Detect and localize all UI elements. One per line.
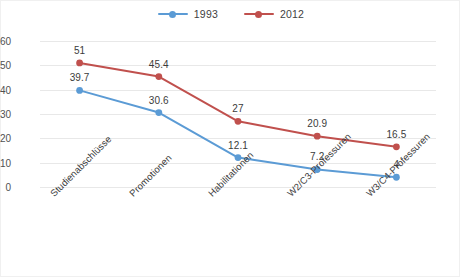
y-axis-tick-label: 50	[0, 60, 11, 71]
y-axis-tick-label: 20	[0, 133, 11, 144]
legend-label: 1993	[194, 8, 218, 20]
data-label: 27	[232, 103, 243, 114]
data-point-marker[interactable]	[76, 87, 83, 94]
data-point-marker[interactable]	[314, 133, 321, 140]
y-axis-tick-label: 10	[0, 157, 11, 168]
data-point-marker[interactable]	[155, 109, 162, 116]
y-axis-tick-label: 40	[0, 84, 11, 95]
line-with-dot-marker-icon	[158, 9, 188, 19]
data-point-marker[interactable]	[155, 73, 162, 80]
y-axis-tick-label: 30	[0, 109, 11, 120]
data-label: 51	[74, 45, 85, 56]
line-chart: 19932012 6050403020100 39.730.612.17.245…	[0, 0, 460, 277]
data-label: 12.1	[228, 140, 248, 151]
line-with-dot-marker-icon	[244, 9, 274, 19]
y-axis-tick-label: 60	[0, 36, 11, 47]
data-point-marker[interactable]	[235, 118, 242, 125]
data-label: 45.4	[149, 59, 169, 70]
x-axis: StudienabschlüssePromotionenHabilitation…	[40, 187, 436, 277]
data-label: 20.9	[307, 118, 327, 129]
data-label: 39.7	[70, 72, 90, 83]
chart-legend: 19932012	[1, 8, 460, 20]
data-point-marker[interactable]	[76, 60, 83, 67]
legend-item-1993[interactable]: 1993	[158, 8, 218, 20]
data-label: 30.6	[149, 95, 169, 106]
legend-item-2012[interactable]: 2012	[244, 8, 304, 20]
y-axis-tick-label: 0	[0, 182, 11, 193]
data-point-marker[interactable]	[393, 143, 400, 150]
data-label: 16.5	[386, 129, 406, 140]
legend-label: 2012	[280, 8, 304, 20]
